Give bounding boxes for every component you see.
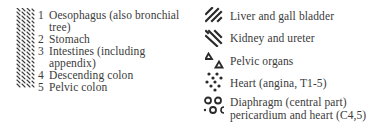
item-number: 3 bbox=[38, 45, 49, 57]
item-label: Descending colon bbox=[49, 69, 133, 81]
item-label: Pelvic colon bbox=[49, 81, 107, 93]
legend-item-pelvic-colon: 5Pelvic colon bbox=[38, 81, 107, 93]
item-number: 2 bbox=[38, 33, 49, 45]
forward-slash-hatch-icon bbox=[205, 7, 223, 23]
legend-item-heart: Heart (angina, T1-5) bbox=[230, 77, 327, 89]
circles-icon bbox=[203, 96, 227, 116]
legend-item-kidney: Kidney and ureter bbox=[230, 32, 315, 44]
item-label: Oesophagus (also bronchial bbox=[49, 9, 179, 21]
item-label: Stomach bbox=[49, 33, 90, 45]
referred-pain-legend: 1Oesophagus (also bronchial tree) 2Stoma… bbox=[0, 0, 370, 128]
item-number: 4 bbox=[38, 69, 49, 81]
item-number: 5 bbox=[38, 81, 49, 93]
legend-item-intestines: 3Intestines (including bbox=[38, 45, 145, 57]
legend-item-diaphragm-continuation: pericardium and heart (C4,5) bbox=[230, 109, 366, 121]
legend-item-pelvic-organs: Pelvic organs bbox=[230, 55, 293, 67]
item-label: Intestines (including bbox=[49, 45, 145, 57]
legend-item-oesophagus-continuation: tree) bbox=[49, 21, 71, 33]
backslash-hatch-icon bbox=[205, 29, 223, 47]
fine-diagonal-hatch-icon bbox=[16, 8, 38, 88]
item-number: 1 bbox=[38, 9, 49, 21]
legend-item-descending-colon: 4Descending colon bbox=[38, 69, 133, 81]
legend-item-diaphragm: Diaphragm (central part) bbox=[230, 96, 347, 108]
triangles-icon bbox=[205, 52, 225, 70]
legend-item-liver: Liver and gall bladder bbox=[230, 10, 334, 22]
dots-icon bbox=[205, 72, 225, 92]
legend-item-oesophagus: 1Oesophagus (also bronchial bbox=[38, 9, 179, 21]
legend-item-stomach: 2Stomach bbox=[38, 33, 90, 45]
legend-item-intestines-continuation: appendix) bbox=[49, 57, 96, 69]
